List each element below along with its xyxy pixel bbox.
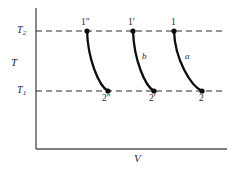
curve-label-b: b bbox=[142, 52, 147, 61]
point-label-1-double-prime: 1″ bbox=[81, 18, 90, 28]
diagram-svg bbox=[0, 0, 236, 174]
x-axis-label: V bbox=[134, 153, 141, 164]
tick-label-t1: T1 bbox=[17, 85, 26, 97]
curve-label-a: a bbox=[185, 52, 190, 61]
point-label-2-prime: 2′ bbox=[149, 94, 156, 104]
point-dot-1-prime bbox=[130, 28, 135, 33]
point-label-2-double-prime: 2″ bbox=[102, 94, 111, 104]
tick-label-t2: T2 bbox=[17, 25, 26, 37]
point-dot-1 bbox=[171, 28, 176, 33]
point-dot-1-double-prime bbox=[84, 28, 89, 33]
point-label-2: 2 bbox=[199, 94, 204, 104]
process-curve-b bbox=[133, 31, 154, 91]
point-label-1-prime: 1′ bbox=[128, 18, 135, 28]
process-curve-a bbox=[174, 31, 202, 91]
figure-canvas: T V T2 T1 1″ 1′ 1 2″ 2′ 2 b a bbox=[0, 0, 236, 174]
tick-label-t2-main: T bbox=[17, 24, 23, 35]
tick-label-t1-subscript: 1 bbox=[23, 89, 27, 97]
process-curve-c bbox=[87, 31, 108, 91]
y-axis-label: T bbox=[11, 57, 17, 68]
tick-label-t1-main: T bbox=[17, 84, 23, 95]
tick-label-t2-subscript: 2 bbox=[23, 29, 27, 37]
point-label-1: 1 bbox=[171, 18, 176, 28]
